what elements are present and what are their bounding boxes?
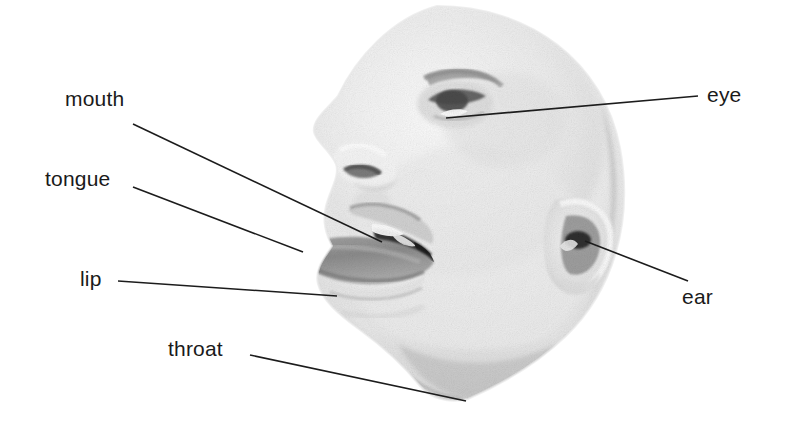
label-tongue: tongue [45,168,110,189]
label-mouth: mouth [65,88,124,109]
label-throat: throat [168,338,223,359]
label-lip: lip [80,268,102,289]
figure-canvas: mouth tongue lip throat eye ear [0,0,785,434]
label-eye: eye [707,84,741,105]
label-ear: ear [682,286,713,307]
head-photo [0,0,785,434]
